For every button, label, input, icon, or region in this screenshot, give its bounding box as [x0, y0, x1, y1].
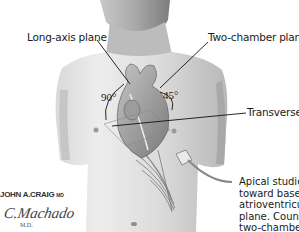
caption-line: atrioventricul	[239, 199, 299, 211]
artist-signature: JOHN A.CRAIGMD	[0, 190, 64, 199]
caption-text: Apical studies toward base. atrioventric…	[239, 176, 299, 232]
label-long-axis-plane: Long-axis plane	[27, 31, 107, 43]
angle-45: 45°	[163, 89, 178, 101]
second-artist-signature: C.Machado	[3, 205, 76, 222]
angle-90: 90°	[101, 91, 116, 103]
label-transverse: Transverse	[247, 106, 299, 118]
caption-line: toward base.	[239, 188, 299, 200]
second-artist-suffix: M.D.	[20, 222, 33, 228]
label-two-chamber-plane: Two-chamber plane	[208, 31, 299, 43]
caption-line: two-chamber	[239, 222, 299, 232]
caption-line: plane. Counte	[239, 211, 299, 223]
caption-line: Apical studies	[239, 176, 299, 188]
anatomical-illustration: Long-axis plane Two-chamber plane Transv…	[0, 0, 299, 232]
